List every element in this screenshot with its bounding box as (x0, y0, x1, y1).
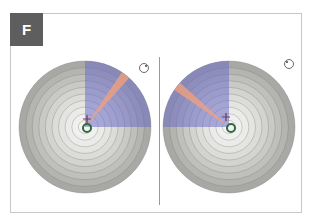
right-eye-plot (163, 60, 295, 194)
left-eye-plot (19, 61, 151, 193)
eye-pupil-dot (145, 65, 147, 67)
visual-field-defect-quadrant (163, 61, 229, 127)
eye-pupil-dot (286, 61, 288, 63)
polar-plots (0, 0, 309, 221)
eye-orientation-icon (285, 60, 294, 69)
eye-orientation-icon (140, 64, 149, 73)
